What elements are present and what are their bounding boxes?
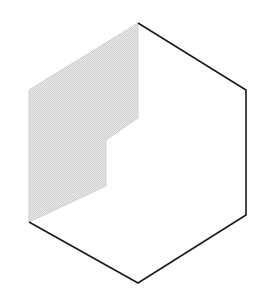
figure-canvas [0, 0, 277, 300]
hexagon-figure-svg [0, 0, 277, 300]
